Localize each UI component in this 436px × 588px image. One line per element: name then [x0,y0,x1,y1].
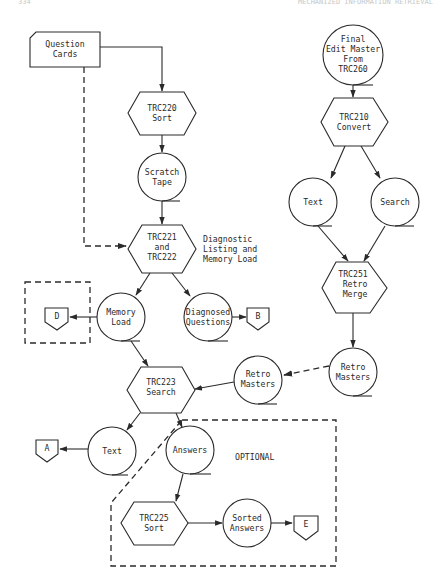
offpage-a-label: A [45,443,50,453]
final-edit-line4: TRC260 [338,64,368,74]
page-number: 334 [18,0,31,6]
offpage-e-label: E [304,519,309,529]
offpage-b-label: B [256,311,261,321]
retro-right-line2: Masters [336,372,371,382]
edge-trc210-text [331,146,345,178]
search-right-label: Search [380,197,410,207]
text-right-label: Text [303,197,323,207]
trc251-line1: TRC251 [338,269,368,279]
trc225-line1: TRC225 [139,513,169,523]
offpage-connector-e[interactable]: E [294,516,318,540]
running-title: MECHANIZED INFORMATION RETRIEVAL [298,0,433,6]
memory-load-line1: Memory [106,307,136,317]
diagnosed-line1: Diagnosed [186,307,230,317]
sorted-answers-node[interactable]: Sorted Answers [223,499,271,547]
edge-text-trc251 [318,226,348,261]
edge-trc221-diagnosed [172,273,190,296]
text-lower-label: Text [102,446,122,456]
edge-retro-retro [284,366,329,375]
edge-trc223-answers [176,413,182,427]
answers-tape-node[interactable]: Answers [166,426,214,474]
retro-right-line1: Retro [341,362,366,372]
trc210-line1: TRC210 [339,112,369,122]
retro-masters-mid-node[interactable]: Retro Masters [234,356,282,404]
edge-trc210-search [361,146,380,178]
diagnostic-line2: Listing and [203,244,257,254]
trc221-line1: TRC221 [147,232,177,242]
search-tape-right-node[interactable]: Search [371,178,419,226]
diagnostic-annotation: Diagnostic Listing and Memory Load [203,234,257,264]
trc210-line2: Convert [337,122,372,132]
sorted-answers-line2: Answers [230,523,265,533]
text-tape-right-node[interactable]: Text [289,178,337,226]
diagnostic-line3: Memory Load [203,254,257,264]
trc221-trc222-node[interactable]: TRC221 and TRC222 [128,225,196,273]
trc221-line2: and [155,242,170,252]
diagnosed-line2: Questions [186,317,230,327]
edge-cards-trc221 [84,67,126,246]
flowchart-diagram: 334 MECHANIZED INFORMATION RETRIEVAL [0,0,436,588]
edge-search-trc251 [364,226,385,261]
edge-retro-trc223 [195,382,234,389]
trc220-sort-node[interactable]: TRC220 Sort [128,92,196,135]
trc225-sort-node[interactable]: TRC225 Sort [121,502,188,545]
offpage-connector-d[interactable]: D [45,308,68,330]
diagnosed-questions-node[interactable]: Diagnosed Questions [184,293,232,341]
retro-mid-line2: Masters [241,379,276,389]
trc251-retro-merge-node[interactable]: TRC251 Retro Merge [322,262,387,313]
optional-label: OPTIONAL [235,452,275,462]
final-edit-line1: Final [341,34,366,44]
offpage-connector-a[interactable]: A [36,440,58,462]
trc225-line2: Sort [144,523,164,533]
edge-trc223-text [127,413,140,430]
edge-trc221-memory [136,273,150,295]
edge-memory-trc223 [131,341,148,366]
trc251-line2: Retro [343,279,368,289]
trc223-search-node[interactable]: TRC223 Search [127,367,195,413]
final-edit-line2: Edit Master [326,44,380,54]
final-edit-line3: From [343,54,363,64]
offpage-connector-b[interactable]: B [247,308,269,330]
memory-load-line2: Load [111,317,131,327]
memory-load-node[interactable]: Memory Load [97,293,145,341]
diagnostic-line1: Diagnostic [203,234,252,244]
question-cards-line2: Cards [53,49,78,59]
trc210-convert-node[interactable]: TRC210 Convert [321,98,388,146]
retro-mid-line1: Retro [246,369,271,379]
trc251-line3: Merge [343,289,368,299]
trc223-line2: Search [146,387,176,397]
final-edit-master-node[interactable]: Final Edit Master From TRC260 [323,25,383,85]
question-cards-line1: Question [45,39,85,49]
sorted-answers-line1: Sorted [232,513,262,523]
scratch-tape-line2: Tape [152,177,172,187]
retro-masters-right-node[interactable]: Retro Masters [329,348,377,396]
trc223-line1: TRC223 [146,377,176,387]
offpage-d-label: D [55,311,60,321]
edge-cards-trc220 [100,47,162,91]
edge-answers-trc225 [176,474,183,501]
scratch-tape-line1: Scratch [145,167,180,177]
text-tape-lower-node[interactable]: Text [88,427,136,475]
trc220-line2: Sort [152,113,172,123]
answers-label: Answers [173,445,208,455]
trc220-line1: TRC220 [147,103,177,113]
question-cards-node[interactable]: Question Cards [30,32,100,67]
scratch-tape-node[interactable]: Scratch Tape [138,153,186,201]
trc221-line3: TRC222 [147,252,177,262]
